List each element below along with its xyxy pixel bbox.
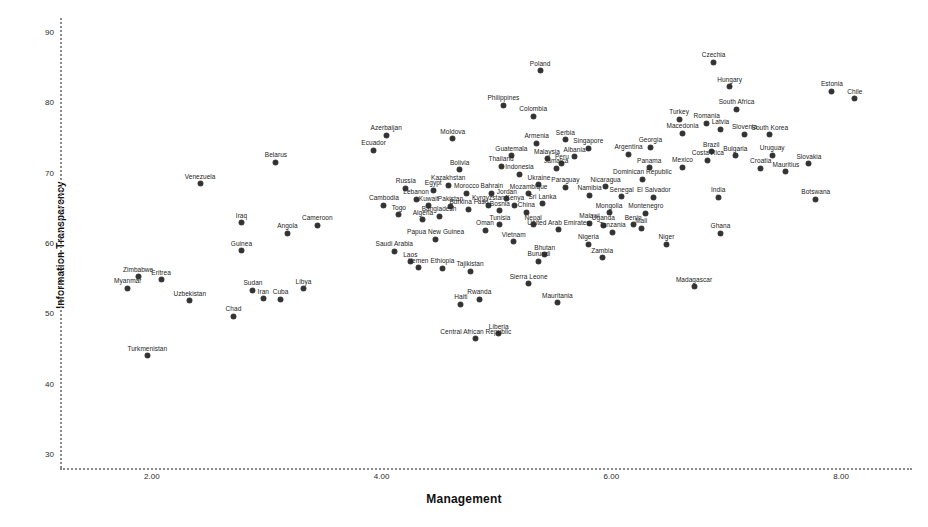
- y-tick-label: 90: [45, 28, 54, 37]
- data-point-label: United Arab Emirates: [527, 219, 589, 226]
- data-point: [680, 131, 685, 136]
- data-point: [734, 107, 739, 112]
- data-point: [239, 220, 244, 225]
- data-point-label: Bosnia: [490, 200, 510, 207]
- data-point-label: Zimbabwe: [123, 266, 153, 273]
- x-tick-label: 2.00: [144, 472, 160, 481]
- data-point-label: Central African Republic: [440, 328, 511, 335]
- data-point-label: Bulgaria: [723, 145, 747, 152]
- data-point: [125, 286, 130, 291]
- y-tick-label: 60: [45, 239, 54, 248]
- data-point-label: Iraq: [236, 212, 247, 219]
- data-point-label: Oman: [476, 220, 494, 227]
- data-point: [643, 211, 648, 216]
- data-point: [538, 68, 543, 73]
- data-point: [458, 302, 463, 307]
- data-point: [648, 145, 653, 150]
- data-point: [727, 84, 732, 89]
- data-point-label: South Korea: [752, 124, 789, 131]
- data-point: [718, 231, 723, 236]
- data-point: [586, 146, 591, 151]
- data-point: [464, 191, 469, 196]
- data-point: [600, 255, 605, 260]
- data-point-label: China: [518, 202, 535, 209]
- data-point: [499, 164, 504, 169]
- data-point: [711, 60, 716, 65]
- x-tick-label: 8.00: [833, 472, 849, 481]
- data-point-label: Namibia: [577, 185, 601, 192]
- data-point: [396, 212, 401, 217]
- data-point: [610, 230, 615, 235]
- data-point-label: Saudi Arabia: [376, 241, 413, 248]
- data-point: [603, 184, 608, 189]
- data-point-label: Mali: [635, 218, 647, 225]
- data-point-label: Croatia: [750, 158, 771, 165]
- data-point: [664, 242, 669, 247]
- data-point: [416, 265, 421, 270]
- data-point-label: Zambia: [591, 247, 613, 254]
- data-point-label: Thailand: [488, 156, 513, 163]
- data-point: [261, 296, 266, 301]
- data-point-label: El Salvador: [637, 187, 671, 194]
- data-point: [437, 214, 442, 219]
- plot-area: PolandCzechiaHungaryEstoniaChileSouth Af…: [60, 18, 910, 468]
- x-axis-line: [60, 468, 912, 470]
- data-point-label: Jamaica: [544, 158, 569, 165]
- data-point-label: Chile: [847, 88, 862, 95]
- data-point-label: Ethiopia: [431, 258, 455, 265]
- data-point: [639, 226, 644, 231]
- data-point-label: Ghana: [711, 223, 731, 230]
- data-point: [231, 314, 236, 319]
- data-point: [457, 167, 462, 172]
- x-tick-label: 6.00: [604, 472, 620, 481]
- data-point-label: Togo: [392, 204, 406, 211]
- data-point-label: Dominican Republic: [613, 169, 672, 176]
- data-point: [512, 203, 517, 208]
- data-point: [556, 227, 561, 232]
- data-point-label: Venezuela: [185, 173, 216, 180]
- data-point-label: Guinea: [231, 240, 252, 247]
- data-point-label: Sri Lanka: [528, 193, 556, 200]
- data-point: [829, 89, 834, 94]
- data-point: [250, 288, 255, 293]
- data-point-label: Cameroon: [302, 215, 333, 222]
- data-point: [586, 242, 591, 247]
- data-point-label: Kuwait: [419, 195, 439, 202]
- data-point: [704, 121, 709, 126]
- data-point-label: Panama: [637, 157, 662, 164]
- x-axis-title: Management: [426, 492, 501, 506]
- y-tick-label: 80: [45, 98, 54, 107]
- data-point-label: Rwanda: [467, 289, 491, 296]
- data-point-label: Haiti: [454, 294, 467, 301]
- data-point: [806, 161, 811, 166]
- data-point: [531, 114, 536, 119]
- data-point: [473, 336, 478, 341]
- data-point: [680, 165, 685, 170]
- data-point-label: Colombia: [519, 106, 547, 113]
- data-point: [145, 353, 150, 358]
- data-point-label: Cambodia: [369, 195, 399, 202]
- data-point-label: Eritrea: [151, 269, 171, 276]
- data-point-label: Vietnam: [502, 231, 526, 238]
- data-point: [198, 181, 203, 186]
- data-point-label: Serbia: [556, 129, 575, 136]
- data-point: [626, 152, 631, 157]
- data-point-label: India: [711, 187, 725, 194]
- data-point-label: Poland: [530, 60, 551, 67]
- data-point: [497, 222, 502, 227]
- data-point: [187, 298, 192, 303]
- data-point: [511, 239, 516, 244]
- data-point: [619, 194, 624, 199]
- data-point-label: Turkmenistan: [127, 345, 167, 352]
- data-point: [517, 172, 522, 177]
- data-point-label: Botswana: [801, 189, 830, 196]
- data-point: [587, 193, 592, 198]
- data-point: [526, 281, 531, 286]
- data-point-label: Mexico: [672, 157, 693, 164]
- data-point: [431, 188, 436, 193]
- data-point: [278, 297, 283, 302]
- data-point-label: Uzbekistan: [173, 290, 206, 297]
- data-point-label: Madagascar: [676, 276, 712, 283]
- data-point: [852, 96, 857, 101]
- data-point-label: Guatemala: [495, 145, 527, 152]
